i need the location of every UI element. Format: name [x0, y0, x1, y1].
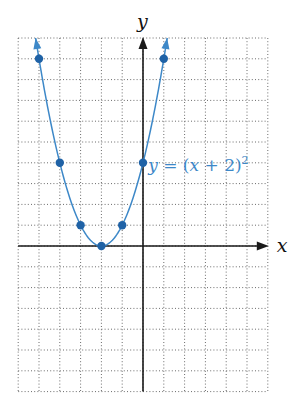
data-point [118, 221, 126, 229]
curve-arrow-left-icon [33, 38, 41, 49]
data-point [56, 159, 64, 167]
data-point [76, 221, 84, 229]
parabola-chart: x y y = (x + 2)2 [0, 0, 300, 409]
equation-exponent: 2 [242, 154, 249, 167]
equation-x: x [189, 155, 199, 175]
y-axis-label: y [136, 10, 148, 32]
data-point [160, 55, 168, 63]
equation-plus-two: + 2) [199, 155, 242, 175]
equation-label: y = (x + 2)2 [147, 154, 248, 175]
y-axis-arrow-icon [139, 37, 148, 49]
equation-eq-open: = ( [158, 155, 190, 175]
data-point [97, 242, 105, 250]
x-axis-arrow-icon [257, 242, 269, 251]
data-point [139, 159, 147, 167]
curve-arrow-right-icon [162, 38, 170, 49]
equation-y: y [147, 155, 158, 175]
data-point [35, 55, 43, 63]
x-axis-label: x [277, 234, 288, 256]
